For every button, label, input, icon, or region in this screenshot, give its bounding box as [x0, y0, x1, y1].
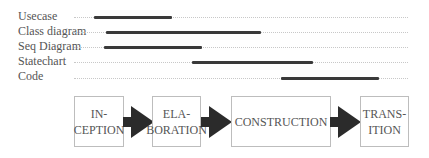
arrow-right-icon — [201, 105, 233, 139]
phase-box-elaboration: ELA- BORATION — [152, 96, 201, 147]
activity-bar — [192, 61, 313, 64]
activity-label: Statechart — [18, 54, 66, 68]
activity-bar — [106, 31, 261, 34]
activity-bar — [94, 16, 172, 19]
phase-label: IN- CEPTION — [74, 106, 125, 138]
phase-box-construction: CONSTRUCTION — [231, 96, 331, 147]
phase-box-inception: IN- CEPTION — [74, 96, 124, 147]
activity-bar — [104, 46, 202, 49]
arrow-right-icon — [330, 105, 362, 139]
phase-label: TRANS- ITION — [363, 106, 406, 138]
phase-label: CONSTRUCTION — [235, 114, 328, 130]
activity-label: Seq Diagram — [18, 39, 81, 53]
phase-box-transition: TRANS- ITION — [360, 96, 409, 147]
phase-label: ELA- BORATION — [146, 106, 207, 138]
activity-label: Usecase — [18, 9, 57, 23]
activity-bar — [281, 77, 379, 80]
activity-label: Code — [18, 69, 43, 83]
activity-label: Class diagram — [18, 24, 86, 38]
